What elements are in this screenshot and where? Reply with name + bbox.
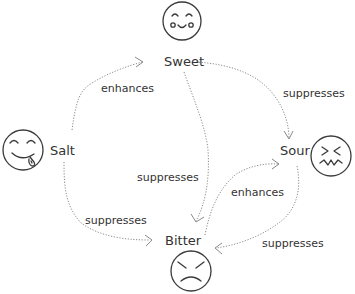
node-label-sweet: Sweet [164,55,204,68]
edge-label-sweet-sour: suppresses [283,88,345,99]
scrunched-face-icon [311,136,351,176]
node-label-bitter: Bitter [165,234,201,247]
node-label-salt: Salt [50,144,75,157]
angry-face-icon [171,251,211,291]
edge-label-sweet-bitter: suppresses [137,172,199,183]
edge-label-salt-sweet: enhances [101,83,154,94]
tongue-out-face-icon [3,130,43,170]
edge-label-sour-bitter: suppresses [262,238,324,249]
node-label-sour: Sour [280,144,310,157]
edge-sweet-to-bitter [184,72,208,222]
taste-diagram: Sweet Salt Sour Bitter enhances suppress… [0,0,355,294]
edge-label-salt-bitter: suppresses [85,215,147,226]
edge-label-bitter-sour: enhances [231,187,284,198]
smiling-face-icon [163,2,201,40]
edge-sweet-to-sour [196,62,293,139]
